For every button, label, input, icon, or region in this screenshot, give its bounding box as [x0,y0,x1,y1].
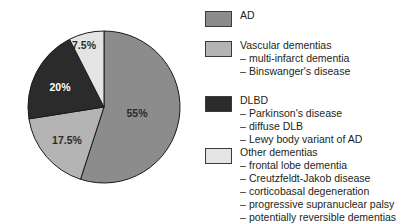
pie-slice-value-label: 7.5% [72,39,97,51]
legend-dash-marker: – [240,120,249,133]
legend-text-dlbd: DLBD–Parkinson's disease–diffuse DLB–Lew… [240,94,409,146]
legend-title-dlbd: DLBD [240,94,409,107]
pie-slice-value-label: 55% [126,107,148,119]
legend-title-ad: AD [240,9,409,22]
legend-subitem: –Binswanger's disease [240,65,409,78]
legend-dash-marker: – [240,52,249,65]
legend-dash-marker: – [240,159,249,172]
legend-swatch-dlbd [205,96,232,112]
legend-dash-marker: – [240,133,249,146]
legend-dash-marker: – [240,185,249,198]
legend-dash-marker: – [240,65,249,78]
legend-swatch-ad [205,11,232,27]
chart-legend: ADVascular dementias–multi-infarct demen… [205,0,409,224]
legend-subitem: –corticobasal degeneration [240,185,409,198]
pie-chart-svg: 55%17.5%20%7.5% [0,0,200,224]
legend-subitem: –progressive supranuclear palsy [240,198,409,211]
legend-subitem: –Creutzfeldt-Jakob disease [240,172,409,185]
legend-subitem: –multi-infarct dementia [240,52,409,65]
legend-text-ad: AD [240,9,409,22]
legend-swatch-vascular-dementias [205,41,232,57]
legend-dash-marker: – [240,107,249,120]
legend-dash-marker: – [240,198,249,211]
legend-subitem: –potentially reversible dementias [240,211,409,224]
pie-slice-value-label: 17.5% [52,134,82,146]
legend-swatch-other-dementias [205,148,232,164]
legend-title-vascular-dementias: Vascular dementias [240,39,409,52]
pie-slices [28,31,180,183]
legend-dash-marker: – [240,172,249,185]
pie-slice-value-label: 20% [49,81,71,93]
legend-text-vascular-dementias: Vascular dementias–multi-infarct dementi… [240,39,409,78]
legend-subitem: –Lewy body variant of AD [240,133,409,146]
legend-subitem: –Parkinson's disease [240,107,409,120]
legend-subitem: –diffuse DLB [240,120,409,133]
legend-title-other-dementias: Other dementias [240,146,409,159]
legend-subitem: –frontal lobe dementia [240,159,409,172]
legend-dash-marker: – [240,211,249,224]
pie-chart-figure: 55%17.5%20%7.5% [0,0,200,224]
legend-text-other-dementias: Other dementias–frontal lobe dementia–Cr… [240,146,409,224]
